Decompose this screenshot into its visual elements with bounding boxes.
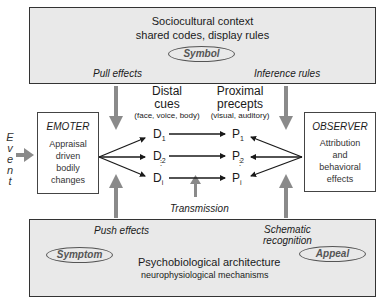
emoter-title: EMOTER: [38, 121, 98, 132]
percept-subscript: i: [240, 179, 242, 186]
proximal-percept-p1: P1: [232, 127, 244, 141]
proximal-heading: Proximal: [210, 84, 270, 98]
proximal-percepts-heading: precepts: [210, 97, 270, 111]
event-letter: t: [4, 176, 16, 187]
distal-cues-heading: cues: [137, 97, 197, 111]
observer-fan: [251, 137, 302, 176]
transmission-label: Transmission: [170, 203, 229, 214]
observer-box: OBSERVER Attribution and behavioral effe…: [304, 112, 376, 192]
proximal-percepts-examples: (visual, auditory): [198, 111, 282, 120]
cue-subscript: i: [162, 179, 164, 186]
transmission-lines: [169, 134, 225, 178]
observer-line: and: [305, 149, 375, 161]
emoter-line: changes: [38, 174, 98, 186]
distal-cue-di: Di: [153, 171, 163, 185]
observer-line: Attribution: [305, 137, 375, 149]
distal-cue-d1: D1: [153, 127, 166, 141]
emoter-line: Appraisal: [38, 138, 98, 150]
observer-line: behavioral: [305, 161, 375, 173]
cue-subscript: 1: [162, 135, 166, 142]
proximal-ellipsis: ⋮: [236, 160, 244, 166]
distal-heading: Distal: [137, 84, 197, 98]
distal-ellipsis: ⋮: [157, 160, 165, 166]
proximal-percept-pi: Pi: [232, 171, 242, 185]
event-label: E v e n t: [4, 132, 16, 187]
observer-line: effects: [305, 173, 375, 185]
emoter-fan: [99, 138, 145, 176]
cue-letter: D: [153, 171, 162, 185]
percept-subscript: 1: [240, 135, 244, 142]
observer-title: OBSERVER: [305, 121, 375, 132]
percept-letter: P: [232, 171, 240, 185]
emoter-box: EMOTER Appraisal driven bodily changes: [37, 112, 99, 194]
emoter-line: bodily: [38, 162, 98, 174]
cue-letter: D: [153, 127, 162, 141]
emoter-line: driven: [38, 150, 98, 162]
percept-letter: P: [232, 127, 240, 141]
